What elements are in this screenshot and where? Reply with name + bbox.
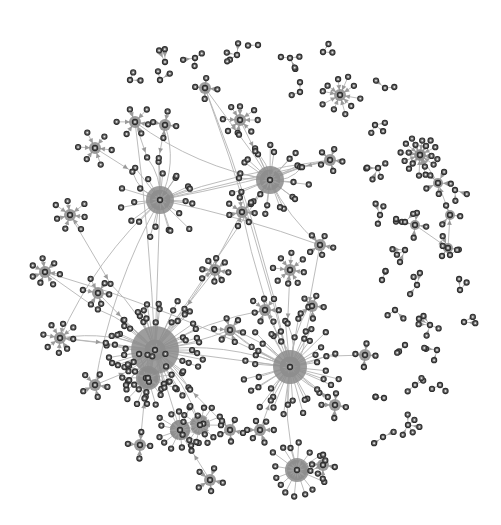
leaf-node[interactable]: [258, 319, 263, 324]
satellite-leaf-node[interactable]: [412, 417, 417, 422]
leaf-node[interactable]: [174, 124, 179, 129]
leaf-node[interactable]: [156, 301, 161, 306]
leaf-node[interactable]: [102, 134, 107, 139]
satellite-node[interactable]: [377, 212, 382, 217]
leaf-node[interactable]: [232, 339, 237, 344]
satellite-node[interactable]: [392, 307, 397, 312]
leaf-node[interactable]: [314, 293, 319, 298]
leaf-node[interactable]: [212, 279, 217, 284]
chain-node[interactable]: [302, 336, 307, 341]
leaf-node[interactable]: [51, 282, 56, 287]
leaf-node[interactable]: [49, 323, 54, 328]
satellite-leaf-node[interactable]: [381, 129, 386, 134]
satellite-node[interactable]: [379, 277, 384, 282]
satellite-leaf-node[interactable]: [167, 71, 172, 76]
satellite-leaf-node[interactable]: [181, 57, 186, 62]
leaf-node[interactable]: [403, 141, 408, 146]
satellite-leaf-node[interactable]: [382, 120, 387, 125]
leaf-node[interactable]: [271, 319, 276, 324]
leaf-node[interactable]: [52, 261, 57, 266]
leaf-node[interactable]: [122, 323, 127, 328]
leaf-node[interactable]: [30, 274, 35, 279]
satellite-leaf-node[interactable]: [394, 216, 399, 221]
satellite-node[interactable]: [372, 122, 377, 127]
leaf-node[interactable]: [169, 412, 174, 417]
leaf-node[interactable]: [115, 332, 120, 337]
leaf-node[interactable]: [57, 272, 62, 277]
leaf-node[interactable]: [182, 413, 187, 418]
leaf-node[interactable]: [125, 397, 130, 402]
leaf-node[interactable]: [429, 153, 434, 158]
hub-node[interactable]: [67, 212, 72, 217]
satellite-leaf-node[interactable]: [411, 211, 416, 216]
leaf-node[interactable]: [112, 342, 117, 347]
chain-node[interactable]: [315, 387, 320, 392]
leaf-node[interactable]: [159, 423, 164, 428]
hub-node[interactable]: [287, 267, 292, 272]
leaf-node[interactable]: [195, 413, 200, 418]
leaf-node[interactable]: [275, 278, 280, 283]
leaf-node[interactable]: [276, 308, 281, 313]
leaf-node[interactable]: [146, 177, 151, 182]
hub-node[interactable]: [332, 402, 337, 407]
leaf-node[interactable]: [268, 386, 273, 391]
leaf-node[interactable]: [256, 385, 261, 390]
leaf-node[interactable]: [251, 298, 256, 303]
satellite-leaf-node[interactable]: [417, 424, 422, 429]
chain-node[interactable]: [182, 306, 187, 311]
leaf-node[interactable]: [307, 450, 312, 455]
leaf-node[interactable]: [340, 159, 345, 164]
leaf-node[interactable]: [41, 332, 46, 337]
leaf-node[interactable]: [188, 404, 193, 409]
leaf-node[interactable]: [160, 171, 165, 176]
satellite-leaf-node[interactable]: [289, 93, 294, 98]
chain-node[interactable]: [308, 468, 313, 473]
satellite-leaf-node[interactable]: [401, 316, 406, 321]
leaf-node[interactable]: [88, 302, 93, 307]
leaf-node[interactable]: [237, 104, 242, 109]
hub-node[interactable]: [362, 352, 367, 357]
leaf-node[interactable]: [346, 74, 351, 79]
leaf-node[interactable]: [215, 87, 220, 92]
hub-node[interactable]: [412, 222, 417, 227]
leaf-node[interactable]: [162, 440, 167, 445]
satellite-node[interactable]: [297, 89, 302, 94]
satellite-leaf-node[interactable]: [365, 165, 370, 170]
chain-node[interactable]: [256, 348, 261, 353]
leaf-node[interactable]: [273, 464, 278, 469]
leaf-node[interactable]: [228, 439, 233, 444]
leaf-node[interactable]: [164, 364, 169, 369]
leaf-node[interactable]: [230, 191, 235, 196]
leaf-node[interactable]: [323, 330, 328, 335]
satellite-node[interactable]: [287, 55, 292, 60]
leaf-node[interactable]: [212, 466, 217, 471]
leaf-node[interactable]: [306, 182, 311, 187]
hub-node[interactable]: [237, 117, 242, 122]
leaf-node[interactable]: [428, 138, 433, 143]
leaf-node[interactable]: [302, 397, 307, 402]
satellite-leaf-node[interactable]: [410, 430, 415, 435]
hub-node[interactable]: [57, 335, 62, 340]
satellite-leaf-node[interactable]: [391, 429, 396, 434]
leaf-node[interactable]: [325, 394, 330, 399]
leaf-node[interactable]: [252, 211, 257, 216]
satellite-leaf-node[interactable]: [192, 63, 197, 68]
leaf-node[interactable]: [256, 374, 261, 379]
leaf-node[interactable]: [349, 103, 354, 108]
leaf-node[interactable]: [321, 305, 326, 310]
satellite-node[interactable]: [162, 59, 167, 64]
leaf-node[interactable]: [336, 77, 341, 82]
leaf-node[interactable]: [168, 228, 173, 233]
leaf-node[interactable]: [165, 109, 170, 114]
satellite-leaf-node[interactable]: [378, 174, 383, 179]
satellite-leaf-node[interactable]: [473, 321, 478, 326]
leaf-node[interactable]: [224, 316, 229, 321]
satellite-leaf-node[interactable]: [157, 48, 162, 53]
leaf-node[interactable]: [183, 199, 188, 204]
satellite-leaf-node[interactable]: [432, 358, 437, 363]
chain-node[interactable]: [103, 340, 108, 345]
leaf-node[interactable]: [102, 281, 107, 286]
leaf-node[interactable]: [176, 409, 181, 414]
leaf-node[interactable]: [123, 383, 128, 388]
leaf-node[interactable]: [409, 136, 414, 141]
